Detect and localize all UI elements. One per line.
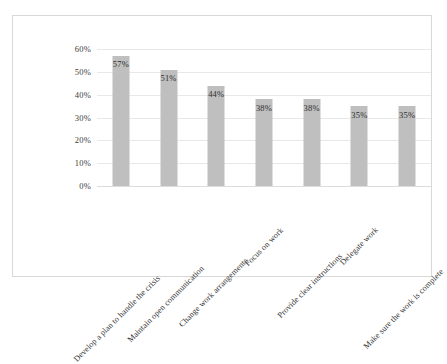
- x-axis-category-labels: Develop a plan to handle the crisis Main…: [97, 186, 431, 291]
- x-axis-tick-label-make-sure-the-work-is-complete: Make sure the work is complete: [362, 267, 446, 351]
- bar-slot: 57%: [97, 49, 145, 186]
- bar-slot: 44%: [192, 49, 240, 186]
- bar-value-label: 51%: [160, 73, 176, 83]
- bar-slot: 35%: [383, 49, 431, 186]
- x-axis-tick-label-change-work-arrangements: Change work arrangements: [177, 256, 250, 329]
- y-axis-tick-label: 30%: [75, 113, 91, 123]
- x-axis-tick-label-provide-clear-instructions: Provide clear instructions: [275, 252, 343, 320]
- y-axis-tick-label: 50%: [75, 67, 91, 77]
- bar-maintain-open-communication[interactable]: [160, 70, 177, 187]
- bar-value-label: 35%: [351, 110, 367, 120]
- bar-change-work-arrangements[interactable]: [208, 86, 225, 187]
- y-axis-tick-label: 10%: [75, 158, 91, 168]
- x-axis-tick-label-focus-on-work: Focus on work: [243, 226, 285, 268]
- bar-slot: 38%: [240, 49, 288, 186]
- bar-slot: 38%: [288, 49, 336, 186]
- bar-series: 57% 51% 44% 38% 38% 35%: [97, 49, 431, 186]
- chart-frame-border: 60% 50% 40% 30% 20% 10% 0%: [12, 15, 432, 277]
- y-axis-tick-label: 40%: [75, 90, 91, 100]
- bar-value-label: 44%: [208, 89, 224, 99]
- bar-value-label: 35%: [399, 110, 415, 120]
- bar-slot: 51%: [145, 49, 193, 186]
- bar-value-label: 38%: [256, 103, 272, 113]
- bar-value-label: 57%: [113, 59, 129, 69]
- x-axis-tick-label-delegate-work: Delegate work: [339, 225, 381, 267]
- bar-value-label: 38%: [304, 103, 320, 113]
- y-axis-tick-label: 20%: [75, 135, 91, 145]
- y-axis-tick-label: 60%: [75, 44, 91, 54]
- y-axis-tick-label: 0%: [79, 181, 91, 191]
- bar-develop-a-plan-to-handle-the-crisis[interactable]: [112, 56, 129, 186]
- bar-slot: 35%: [336, 49, 384, 186]
